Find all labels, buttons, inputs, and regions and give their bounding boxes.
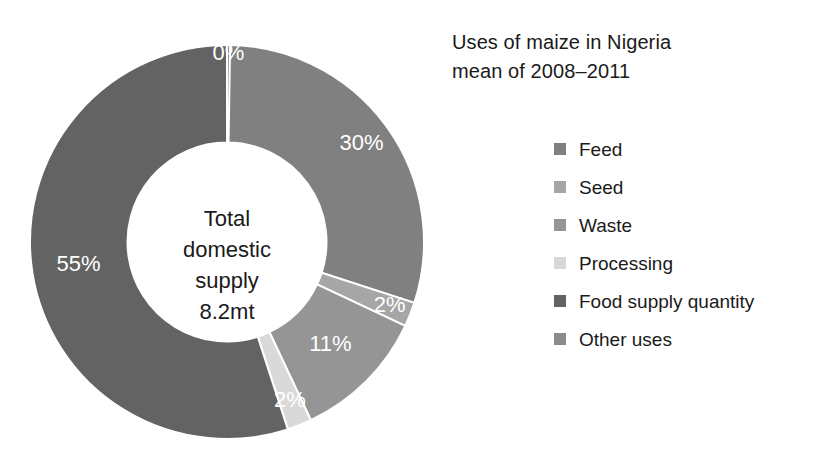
- legend-item-label: Food supply quantity: [579, 292, 754, 311]
- legend-item[interactable]: Seed: [554, 168, 812, 206]
- donut-chart-figure: 30%2%11%2%55%0% Total domestic supply 8.…: [0, 0, 822, 474]
- legend-swatch-icon: [554, 295, 566, 307]
- chart-side-panel: Uses of maize in Nigeria mean of 2008–20…: [452, 22, 812, 442]
- legend-item-label: Feed: [579, 140, 622, 159]
- legend-swatch-icon: [554, 333, 566, 345]
- legend-item-label: Seed: [579, 178, 623, 197]
- legend-swatch-icon: [554, 143, 566, 155]
- donut-slice-label: 30%: [339, 130, 383, 155]
- center-label-line-4: 8.2mt: [199, 299, 254, 324]
- legend-item-label: Waste: [579, 216, 632, 235]
- legend-item[interactable]: Feed: [554, 130, 812, 168]
- donut-slice[interactable]: [227, 45, 424, 303]
- chart-title: Uses of maize in Nigeria mean of 2008–20…: [452, 28, 812, 86]
- legend-item[interactable]: Other uses: [554, 320, 812, 358]
- legend-swatch-icon: [554, 219, 566, 231]
- center-label-line-3: supply: [195, 268, 259, 293]
- legend-item[interactable]: Waste: [554, 206, 812, 244]
- donut-slice-label: 2%: [374, 292, 406, 317]
- donut-chart: 30%2%11%2%55%0% Total domestic supply 8.…: [14, 20, 450, 464]
- donut-slice-label: 0%: [213, 40, 245, 65]
- donut-slice-label: 2%: [274, 387, 306, 412]
- legend-item[interactable]: Food supply quantity: [554, 282, 812, 320]
- donut-chart-svg: 30%2%11%2%55%0% Total domestic supply 8.…: [14, 20, 450, 464]
- center-label-line-1: Total: [204, 206, 250, 231]
- donut-center-label: Total domestic supply 8.2mt: [183, 206, 271, 324]
- legend-swatch-icon: [554, 181, 566, 193]
- donut-slice-label: 55%: [57, 251, 101, 276]
- legend-swatch-icon: [554, 257, 566, 269]
- chart-legend: FeedSeedWasteProcessingFood supply quant…: [452, 130, 812, 358]
- donut-slice-label: 11%: [309, 331, 351, 356]
- center-label-line-2: domestic: [183, 237, 271, 262]
- legend-item[interactable]: Processing: [554, 244, 812, 282]
- legend-item-label: Processing: [579, 254, 673, 273]
- legend-item-label: Other uses: [579, 330, 672, 349]
